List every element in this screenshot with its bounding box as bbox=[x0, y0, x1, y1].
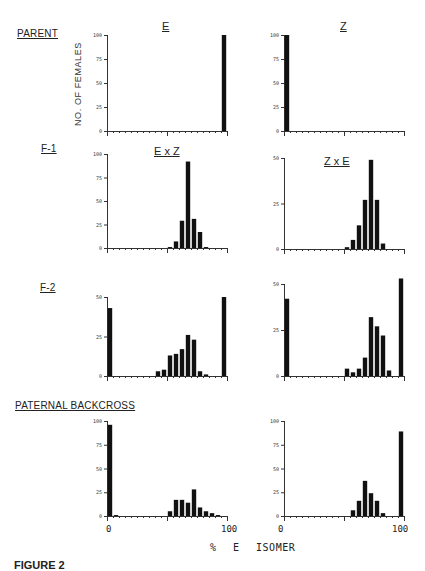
y-axis-label: NO. OF FEMALES bbox=[73, 42, 83, 126]
svg-text:100: 100 bbox=[93, 418, 102, 424]
x-axis-label: % E ISOMER bbox=[210, 542, 295, 553]
x-tick-100-left: 100 bbox=[221, 524, 237, 534]
svg-text:0: 0 bbox=[276, 246, 279, 252]
svg-text:25: 25 bbox=[273, 201, 279, 207]
svg-text:50: 50 bbox=[96, 294, 102, 300]
row-label-backcross: PATERNAL BACKCROSS bbox=[15, 400, 135, 411]
svg-text:0: 0 bbox=[276, 513, 279, 519]
svg-text:0: 0 bbox=[99, 373, 102, 379]
x-tick-0-right: 0 bbox=[278, 524, 283, 534]
svg-text:100: 100 bbox=[93, 32, 102, 38]
histogram-backcross-right: 0255075100 bbox=[284, 421, 404, 516]
x-tick-100-right: 100 bbox=[392, 524, 408, 534]
histogram-f2-zxe: 02550 bbox=[284, 284, 404, 376]
svg-text:50: 50 bbox=[96, 198, 102, 204]
svg-text:100: 100 bbox=[270, 418, 279, 424]
column-title-e: E bbox=[162, 20, 169, 32]
svg-text:50: 50 bbox=[273, 466, 279, 472]
svg-text:75: 75 bbox=[96, 56, 102, 62]
svg-text:75: 75 bbox=[273, 56, 279, 62]
svg-text:100: 100 bbox=[93, 151, 102, 157]
svg-text:50: 50 bbox=[273, 281, 279, 287]
svg-text:75: 75 bbox=[96, 442, 102, 448]
svg-text:0: 0 bbox=[99, 245, 102, 251]
histogram-f2-exz: 02550 bbox=[107, 297, 227, 376]
svg-text:50: 50 bbox=[273, 155, 279, 161]
histogram-backcross-left: 0255075100 bbox=[107, 421, 227, 516]
histogram-parent-e: 0255075100 bbox=[107, 35, 227, 131]
row-label-f2: F-2 bbox=[40, 282, 56, 293]
svg-text:0: 0 bbox=[99, 128, 102, 134]
svg-text:0: 0 bbox=[276, 128, 279, 134]
histogram-parent-z: 0255075100 bbox=[284, 35, 404, 131]
row-label-parent: PARENT bbox=[17, 28, 58, 39]
row-label-f1: F-1 bbox=[41, 143, 57, 154]
svg-text:100: 100 bbox=[270, 32, 279, 38]
svg-text:50: 50 bbox=[96, 80, 102, 86]
svg-text:50: 50 bbox=[96, 466, 102, 472]
figure-caption: FIGURE 2 bbox=[14, 559, 65, 571]
svg-text:25: 25 bbox=[96, 104, 102, 110]
svg-text:25: 25 bbox=[273, 327, 279, 333]
svg-text:0: 0 bbox=[99, 513, 102, 519]
svg-text:25: 25 bbox=[273, 104, 279, 110]
histogram-f1-exz: 0255075100 bbox=[107, 154, 227, 248]
svg-text:50: 50 bbox=[273, 80, 279, 86]
svg-text:25: 25 bbox=[96, 222, 102, 228]
x-tick-0-left: 0 bbox=[106, 524, 111, 534]
svg-text:25: 25 bbox=[96, 489, 102, 495]
svg-text:75: 75 bbox=[96, 175, 102, 181]
histogram-f1-zxe: 02550 bbox=[284, 158, 404, 249]
svg-text:75: 75 bbox=[273, 442, 279, 448]
svg-text:0: 0 bbox=[276, 373, 279, 379]
svg-text:25: 25 bbox=[96, 334, 102, 340]
column-title-z: Z bbox=[340, 20, 347, 32]
svg-text:25: 25 bbox=[273, 489, 279, 495]
